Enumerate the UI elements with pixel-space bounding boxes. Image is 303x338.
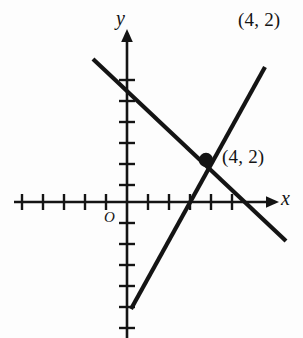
intersection-point-label: (4, 2) — [222, 147, 264, 166]
intersection-point-marker — [199, 153, 213, 167]
coordinate-plane-graphic — [0, 0, 303, 338]
y-axis-label: y — [116, 8, 125, 28]
y-axis-arrowhead — [121, 29, 133, 42]
x-axis-arrowhead — [266, 196, 279, 208]
y-axis — [121, 29, 133, 338]
origin-label: O — [104, 210, 115, 225]
corner-answer-label: (4, 2) — [238, 10, 280, 29]
increasing-line — [131, 67, 265, 309]
x-axis-label: x — [281, 188, 290, 208]
figure-canvas: y x O (4, 2) (4, 2) — [0, 0, 303, 338]
